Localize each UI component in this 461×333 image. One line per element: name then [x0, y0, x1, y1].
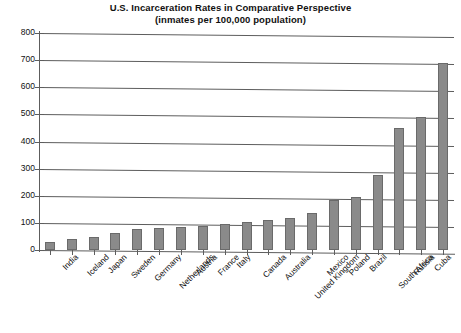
- x-label-cuba: Cuba: [432, 252, 453, 273]
- y-tick-label-400: 400: [3, 136, 35, 146]
- y-tick-label-500: 500: [3, 108, 35, 118]
- bar-germany: [132, 229, 142, 250]
- bar-austria: [176, 227, 186, 250]
- bar-south-africa: [373, 175, 383, 250]
- bar-cuba: [416, 117, 426, 250]
- bar-poland: [329, 200, 339, 250]
- chart-title-line-1: U.S. Incarceration Rates in Comparative …: [0, 2, 461, 14]
- x-label-brazil: Brazil: [367, 252, 389, 274]
- x-label-india: India: [60, 252, 80, 272]
- bar-united-states: [438, 63, 448, 250]
- bar-series: [39, 33, 454, 250]
- y-tick-label-0: 0: [3, 244, 35, 254]
- x-label-australia: Australia: [283, 252, 313, 282]
- chart-title: U.S. Incarceration Rates in Comparative …: [0, 2, 461, 25]
- x-label-germany: Germany: [152, 252, 183, 283]
- bar-france: [198, 226, 208, 250]
- chart-container: U.S. Incarceration Rates in Comparative …: [0, 0, 461, 333]
- y-tick-label-600: 600: [3, 81, 35, 91]
- y-tick-label-200: 200: [3, 190, 35, 200]
- y-tick-label-100: 100: [3, 217, 35, 227]
- plot-area: 0100200300400500600700800: [39, 33, 454, 250]
- bar-canada: [242, 222, 252, 250]
- bar-iceland: [67, 239, 77, 250]
- bar-mexico: [307, 213, 317, 250]
- bar-brazil: [351, 197, 361, 250]
- bar-italy: [220, 224, 230, 250]
- bar-india: [45, 242, 55, 250]
- x-label-japan: Japan: [105, 252, 128, 275]
- y-tick-label-300: 300: [3, 163, 35, 173]
- x-label-austria: Austria: [194, 252, 219, 277]
- bar-netherlands: [154, 228, 164, 250]
- bar-sweden: [110, 233, 120, 250]
- bar-australia: [263, 220, 273, 250]
- chart-title-line-2: (inmates per 100,000 population): [0, 14, 461, 26]
- bar-japan: [89, 237, 99, 250]
- bar-russia: [394, 128, 404, 250]
- x-axis-tick-labels: IndiaIcelandJapanSwedenGermanyNetherland…: [39, 252, 455, 332]
- bar-united-kingdom: [285, 218, 295, 250]
- y-tick-label-700: 700: [3, 54, 35, 64]
- y-tick-label-800: 800: [3, 27, 35, 37]
